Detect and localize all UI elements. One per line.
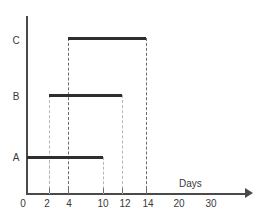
- task-bar-b: [49, 94, 122, 97]
- x-tick-mark-12: [122, 188, 123, 193]
- x-tick-mark-14: [146, 188, 147, 193]
- y-tick-label-c: C: [10, 36, 22, 46]
- x-tick-label-30: 30: [200, 198, 222, 210]
- guide-line-day-4: [68, 38, 69, 194]
- x-tick-label-12: 12: [114, 198, 136, 210]
- x-tick-label-10: 10: [92, 198, 114, 210]
- task-bar-c: [68, 37, 146, 40]
- x-axis-arrow-icon: [245, 188, 253, 198]
- x-tick-label-20: 20: [168, 198, 190, 210]
- x-tick-mark-10: [103, 188, 104, 193]
- x-tick-mark-4: [68, 188, 69, 193]
- task-bar-a: [27, 156, 103, 159]
- x-tick-label-4: 4: [58, 198, 80, 210]
- x-axis-line: [26, 193, 248, 195]
- gantt-chart: C B A 0 2 4 10 12 14 20 30 Days: [0, 0, 260, 223]
- x-tick-mark-2: [49, 188, 50, 193]
- guide-line-day-14: [146, 38, 147, 194]
- y-tick-label-b: B: [10, 92, 22, 102]
- guide-line-day-12: [122, 95, 123, 194]
- x-tick-label-0: 0: [12, 198, 34, 210]
- x-axis-title: Days: [179, 178, 202, 189]
- y-tick-label-a: A: [10, 153, 22, 163]
- guide-line-day-2-upper: [49, 95, 50, 194]
- x-tick-label-14: 14: [137, 198, 159, 210]
- y-axis-line: [26, 16, 28, 194]
- x-tick-label-2: 2: [36, 198, 58, 210]
